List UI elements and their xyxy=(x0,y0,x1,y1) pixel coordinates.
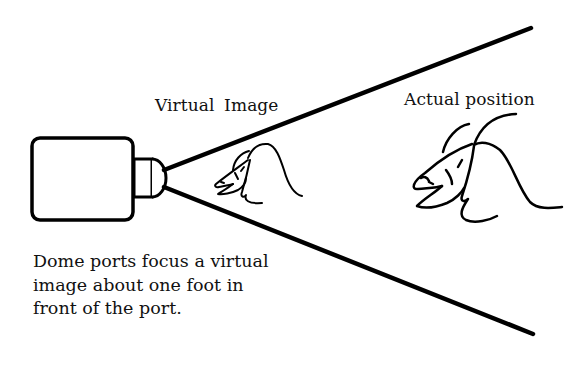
caption-line: front of the port. xyxy=(33,297,269,321)
caption: Dome ports focus a virtual image about o… xyxy=(33,250,269,321)
caption-line: image about one foot in xyxy=(33,274,269,298)
camera-housing xyxy=(32,138,133,220)
actual-position-fish xyxy=(414,114,562,222)
actual-position-label: Actual position xyxy=(404,89,535,109)
caption-line: Dome ports focus a virtual xyxy=(33,250,269,274)
dome-port xyxy=(152,159,166,197)
port-neck xyxy=(134,159,152,197)
virtual-image-label: Virtual Image xyxy=(155,95,279,115)
virtual-image-fish xyxy=(215,144,302,203)
